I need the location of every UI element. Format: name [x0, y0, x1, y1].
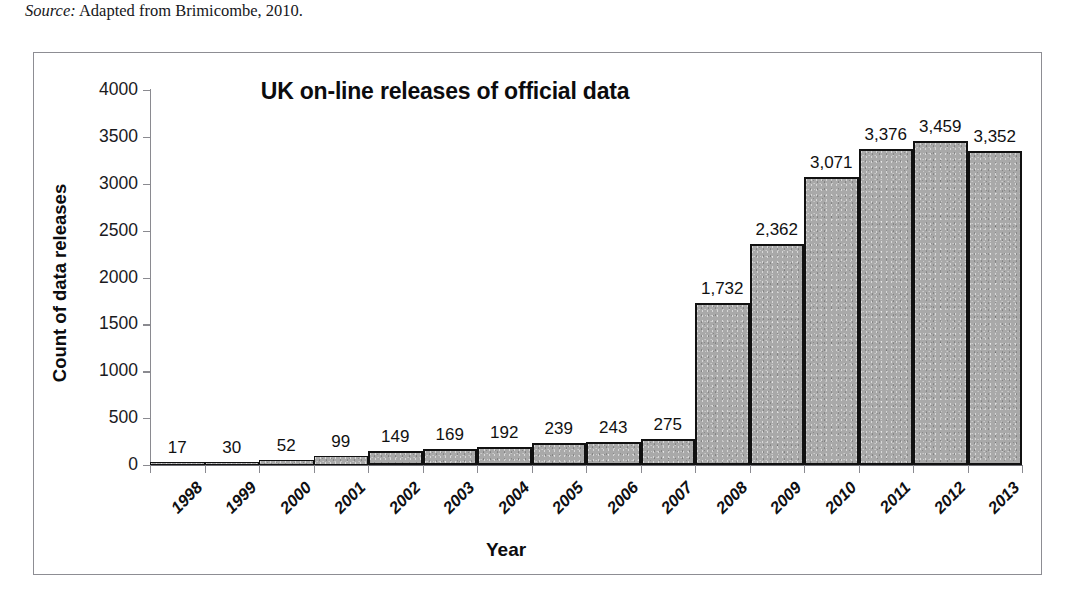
- y-axis-tick-label: 1500: [38, 315, 138, 333]
- bar-value-label: 3,071: [792, 154, 871, 171]
- bar-value-label: 3,352: [956, 128, 1035, 145]
- x-axis-tick: [423, 465, 424, 473]
- x-axis-tick: [368, 465, 369, 473]
- y-axis-tick-label: 2000: [38, 269, 138, 287]
- y-axis-tick-label: 0: [38, 456, 138, 474]
- x-axis-tick: [968, 465, 969, 473]
- y-axis-tick: [143, 184, 151, 185]
- x-axis-tick: [150, 465, 151, 473]
- bar: [423, 449, 478, 465]
- chart-page: { "source_note": { "label": "Source:", "…: [0, 0, 1070, 612]
- y-axis-tick: [143, 231, 151, 232]
- y-axis-tick-labels: 40003500300025002000150010005000: [32, 0, 138, 612]
- bar: [532, 443, 587, 465]
- y-axis-tick-label: 1000: [38, 362, 138, 380]
- plot-area: [150, 90, 1022, 465]
- y-axis-tick: [143, 418, 151, 419]
- y-axis-tick-label: 4000: [38, 81, 138, 99]
- y-axis-tick: [143, 90, 151, 91]
- bar: [205, 462, 260, 465]
- x-axis-tick: [695, 465, 696, 473]
- y-axis-tick-label: 3500: [38, 128, 138, 146]
- x-axis-tick: [586, 465, 587, 473]
- x-axis-tick: [1022, 465, 1023, 473]
- x-axis-tick: [913, 465, 914, 473]
- bar: [150, 462, 205, 465]
- x-axis-tick: [314, 465, 315, 473]
- x-axis-tick: [859, 465, 860, 473]
- y-axis-tick: [143, 324, 151, 325]
- bar-value-label: 1,732: [683, 280, 762, 297]
- bar: [859, 149, 914, 466]
- bar: [968, 151, 1023, 465]
- bar: [750, 244, 805, 465]
- bar: [477, 447, 532, 465]
- bar: [314, 456, 369, 465]
- x-axis-tick: [641, 465, 642, 473]
- y-axis-tick: [143, 137, 151, 138]
- x-axis-title: Year: [486, 539, 526, 561]
- bar: [641, 439, 696, 465]
- x-axis-tick: [477, 465, 478, 473]
- y-axis-tick: [143, 371, 151, 372]
- y-axis-tick-label: 3000: [38, 175, 138, 193]
- y-axis-tick: [143, 278, 151, 279]
- x-axis-tick: [532, 465, 533, 473]
- x-axis-tick: [804, 465, 805, 473]
- y-axis-tick-label: 2500: [38, 222, 138, 240]
- bar: [695, 303, 750, 465]
- bar-value-label: 275: [629, 416, 708, 433]
- bar-value-label: 2,362: [738, 221, 817, 238]
- bar: [586, 442, 641, 465]
- bar: [913, 141, 968, 465]
- y-axis-tick-label: 500: [38, 409, 138, 427]
- x-axis-tick: [259, 465, 260, 473]
- bar: [368, 451, 423, 465]
- bar: [259, 460, 314, 465]
- x-axis-tick: [750, 465, 751, 473]
- x-axis-tick: [205, 465, 206, 473]
